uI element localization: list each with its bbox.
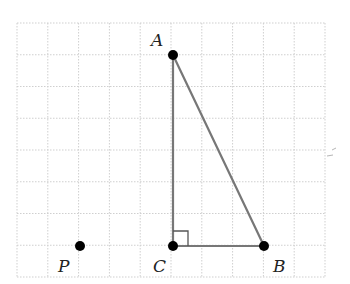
point-p bbox=[75, 241, 85, 251]
label-a: A bbox=[149, 30, 163, 50]
segment-ab bbox=[173, 55, 264, 246]
grid bbox=[17, 23, 325, 277]
label-b: B bbox=[272, 256, 286, 276]
point-b bbox=[259, 241, 269, 251]
point-c bbox=[168, 241, 178, 251]
triangle-diagram: ABCP bbox=[0, 0, 350, 284]
point-a bbox=[168, 50, 178, 60]
scan-artifact bbox=[327, 148, 336, 156]
label-p: P bbox=[57, 256, 70, 276]
label-c: C bbox=[153, 256, 166, 276]
triangle-sides bbox=[173, 55, 264, 246]
